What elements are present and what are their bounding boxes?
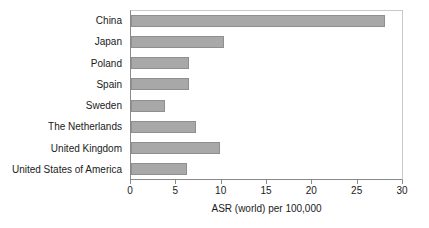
- bar-row: [131, 138, 403, 159]
- bar-row: [131, 74, 403, 95]
- category-label-cell: Sweden: [0, 95, 126, 116]
- category-label-cell: Poland: [0, 53, 126, 74]
- bar-row: [131, 116, 403, 137]
- x-tick-mark: [402, 180, 403, 184]
- bar: [131, 121, 196, 133]
- bar-row: [131, 159, 403, 180]
- category-axis: ChinaJapanPolandSpainSwedenThe Netherlan…: [0, 10, 126, 180]
- category-label: Poland: [91, 58, 122, 69]
- bars-container: [131, 10, 403, 180]
- category-label: United Kingdom: [51, 143, 122, 154]
- x-tick-label: 25: [351, 185, 362, 197]
- x-axis-tick-labels: 051015202530: [0, 185, 429, 199]
- x-tick-mark: [175, 180, 176, 184]
- bar-chart: ChinaJapanPolandSpainSwedenThe Netherlan…: [0, 0, 429, 228]
- category-label: Spain: [96, 79, 122, 90]
- x-tick-mark: [130, 180, 131, 184]
- category-label-cell: Japan: [0, 31, 126, 52]
- category-label: Japan: [95, 36, 122, 47]
- x-tick-label: 0: [127, 185, 133, 197]
- category-label-cell: China: [0, 10, 126, 31]
- bar: [131, 57, 189, 69]
- category-label-cell: United States of America: [0, 159, 126, 180]
- bar-row: [131, 95, 403, 116]
- x-tick-label: 20: [306, 185, 317, 197]
- x-tick-mark: [221, 180, 222, 184]
- x-tick-mark: [266, 180, 267, 184]
- bar: [131, 142, 220, 154]
- x-tick-mark: [311, 180, 312, 184]
- category-label-cell: Spain: [0, 74, 126, 95]
- x-tick-label: 5: [173, 185, 179, 197]
- bar: [131, 78, 189, 90]
- x-axis-title: ASR (world) per 100,000: [130, 203, 403, 215]
- category-label: The Netherlands: [48, 121, 122, 132]
- bar-row: [131, 31, 403, 52]
- category-label: China: [96, 15, 122, 26]
- bar: [131, 15, 385, 27]
- bar: [131, 100, 165, 112]
- category-label-cell: United Kingdom: [0, 138, 126, 159]
- bar: [131, 36, 224, 48]
- bar-row: [131, 10, 403, 31]
- x-tick-label: 10: [215, 185, 226, 197]
- bar-row: [131, 53, 403, 74]
- category-label-cell: The Netherlands: [0, 116, 126, 137]
- x-tick-label: 15: [260, 185, 271, 197]
- category-label: Sweden: [86, 100, 122, 111]
- x-tick-label: 30: [396, 185, 407, 197]
- bar: [131, 163, 187, 175]
- x-tick-mark: [357, 180, 358, 184]
- category-label: United States of America: [12, 164, 122, 175]
